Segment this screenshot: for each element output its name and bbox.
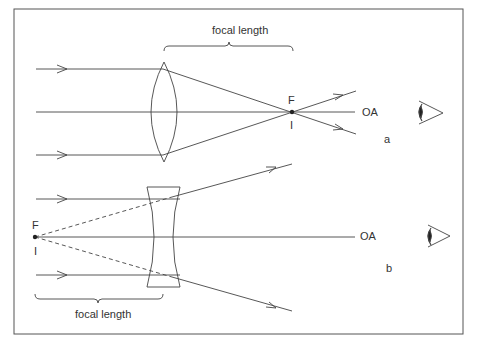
focus-label-a: F (288, 95, 295, 106)
focal-length-label-b: focal length (75, 309, 131, 320)
diagram-frame (14, 9, 463, 334)
focal-length-brace-a (164, 42, 293, 51)
optics-diagram (0, 0, 478, 347)
optical-axis-label-b: OA (360, 231, 376, 242)
virtual-ray-top (35, 197, 172, 237)
eye-icon (419, 101, 443, 124)
optical-axis-label-a: OA (362, 107, 378, 118)
focal-length-brace-b (35, 294, 163, 303)
virtual-ray-bottom (35, 237, 172, 277)
focus-label-b: F (32, 220, 39, 231)
panel-b (33, 164, 450, 311)
panel-a (36, 42, 443, 162)
focal-point-b (33, 235, 37, 239)
image-label-b: I (34, 246, 37, 257)
eye-icon (428, 225, 450, 247)
focal-length-label-a: focal length (212, 25, 268, 36)
refracted-ray-top (163, 69, 356, 134)
panel-label-b: b (386, 263, 392, 274)
refracted-ray-bottom (163, 91, 356, 155)
focal-point-a (290, 110, 294, 114)
image-label-a: I (290, 120, 293, 131)
panel-label-a: a (384, 134, 390, 145)
